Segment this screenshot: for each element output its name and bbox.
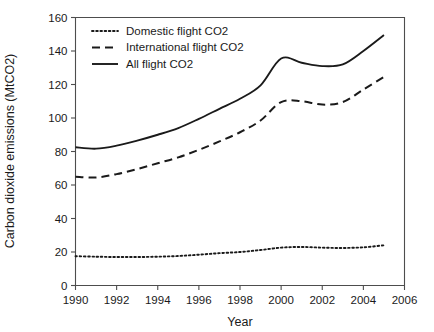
y-tick-label: 100 xyxy=(48,112,67,124)
y-tick-label: 60 xyxy=(55,179,68,191)
y-tick-label: 120 xyxy=(48,79,67,91)
x-tick-label: 2000 xyxy=(268,294,294,306)
y-tick-label: 140 xyxy=(48,45,67,57)
y-tick-label: 40 xyxy=(55,213,68,225)
line-chart: 020406080100120140160 199019921994199619… xyxy=(0,0,434,332)
x-tick-label: 2002 xyxy=(309,294,335,306)
x-tick-label: 2004 xyxy=(351,294,377,306)
x-tick-label: 2006 xyxy=(392,294,418,306)
y-tick-label: 160 xyxy=(48,12,67,24)
legend-label: International flight CO2 xyxy=(126,41,244,53)
legend-label: All flight CO2 xyxy=(126,58,193,70)
x-tick-label: 1990 xyxy=(63,294,89,306)
x-tick-label: 1996 xyxy=(186,294,212,306)
x-tick-label: 1992 xyxy=(104,294,130,306)
y-tick-label: 0 xyxy=(61,280,67,292)
y-tick-label: 20 xyxy=(55,246,68,258)
x-axis-title: Year xyxy=(227,315,252,329)
legend-label: Domestic flight CO2 xyxy=(126,25,228,37)
y-tick-label: 80 xyxy=(55,146,68,158)
chart-figure: 020406080100120140160 199019921994199619… xyxy=(0,0,434,332)
x-tick-label: 1994 xyxy=(145,294,171,306)
x-tick-label: 1998 xyxy=(227,294,253,306)
y-axis-title: Carbon dioxide emissions (MtCO2) xyxy=(3,54,17,249)
